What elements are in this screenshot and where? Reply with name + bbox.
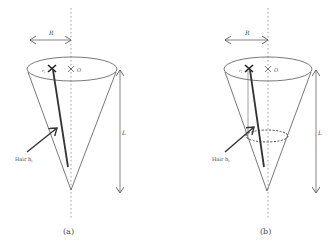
- cone-left-side: [225, 72, 267, 191]
- hair-line: [250, 70, 264, 167]
- length-label: L: [121, 129, 126, 136]
- caption-b: (b): [260, 227, 271, 236]
- origin-marker-icon: [68, 66, 74, 72]
- cone-right-side: [267, 72, 311, 191]
- root-label: ri: [239, 68, 242, 74]
- origin-label: O: [274, 67, 278, 73]
- radius-label: R: [244, 29, 250, 36]
- cone-top-ellipse: [27, 57, 117, 81]
- hair-line: [53, 70, 68, 167]
- hair-label: Hair hi: [212, 156, 230, 163]
- origin-marker-icon: [265, 66, 271, 72]
- length-label: L: [317, 129, 322, 136]
- caption-a: (a): [63, 227, 74, 236]
- root-label: ri: [42, 68, 45, 74]
- radius-label: R: [48, 29, 54, 36]
- root-marker-icon: [245, 65, 253, 72]
- cone-left-side: [28, 72, 71, 190]
- origin-label: O: [77, 67, 81, 73]
- hair-label: Hair hi: [15, 156, 33, 163]
- cross-section-ellipse: [246, 130, 288, 142]
- cone-diagram: R L ri O Hair hi (a) R L ri: [0, 0, 335, 248]
- root-marker-icon: [48, 65, 56, 72]
- cone-right-side: [71, 72, 116, 190]
- panel-a: R L ri O Hair hi (a): [15, 8, 126, 236]
- panel-b: R L ri O Hair hi (b): [212, 8, 322, 236]
